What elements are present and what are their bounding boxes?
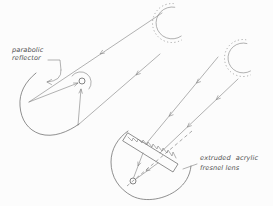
incident-ray (78, 54, 160, 125)
parabolic-reflector-arc (20, 73, 79, 135)
incident-ray (160, 79, 238, 153)
sun-ray-dots (225, 40, 251, 77)
parabolic-reflector-group (20, 13, 162, 135)
solar-concentrator-sketch: parabolic reflector (0, 0, 273, 206)
incident-ray (29, 13, 162, 102)
sun-icon (225, 40, 251, 77)
reflector-label-line1: parabolic (11, 46, 44, 54)
sun-icon (153, 4, 182, 43)
reflector-label-line2: reflector (12, 54, 42, 62)
reflected-ray (78, 89, 82, 125)
refracted-ray (136, 163, 158, 179)
fresnel-lens-group (111, 57, 238, 200)
lens-label-line1: extruded acrylic (200, 154, 258, 162)
label-leader (183, 164, 197, 169)
incident-ray (146, 57, 218, 144)
optical-axis (127, 131, 192, 186)
sun-arc (156, 7, 181, 39)
receiver-hook-arc (72, 72, 91, 89)
lens-label-line2: fresnel lens (200, 164, 240, 172)
label-leader (47, 60, 61, 85)
sketch-diagram: parabolic reflector (0, 0, 273, 206)
sun-arc (228, 43, 250, 73)
sun-ray-dots (153, 4, 182, 43)
focus-point (79, 78, 85, 84)
